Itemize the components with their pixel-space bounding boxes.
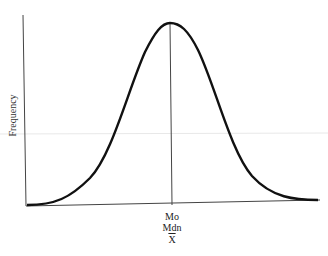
bell-curve <box>27 23 318 205</box>
mean-label: X <box>168 234 175 245</box>
central-tendency-line <box>170 23 172 205</box>
y-axis <box>23 15 26 206</box>
x-axis <box>26 200 320 206</box>
y-axis-label: Frequency <box>7 86 18 146</box>
faint-scan-line <box>0 133 328 134</box>
mode-label: Mo <box>152 212 192 222</box>
median-label: Mdn <box>152 223 192 233</box>
